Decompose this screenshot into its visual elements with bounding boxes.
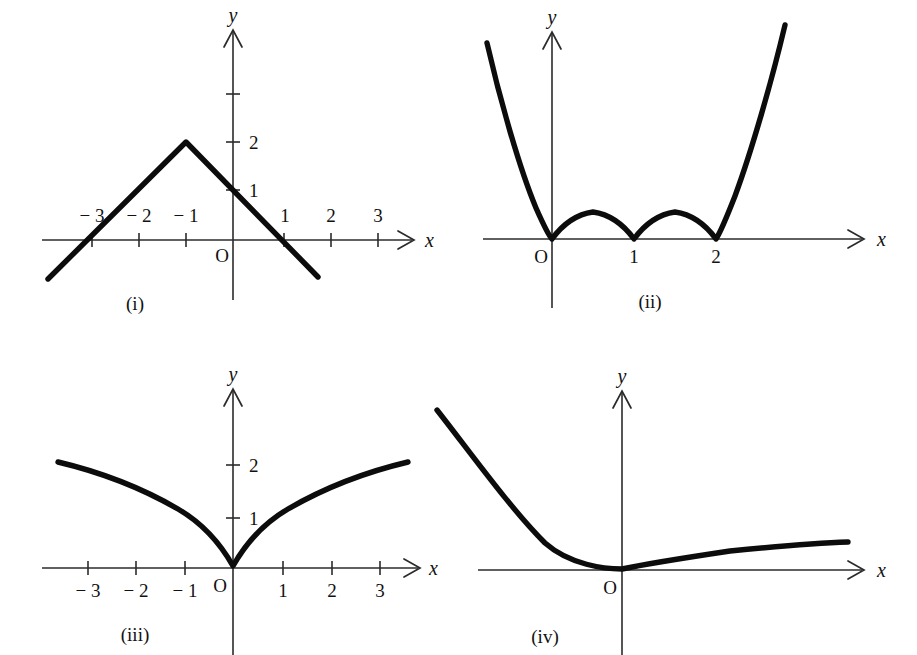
panel-iii-y-axis-label: y xyxy=(227,363,238,386)
panel-i-xtick-label-3: 3 xyxy=(373,205,383,226)
panel-ii-xtick-label-1: 1 xyxy=(629,246,639,267)
panel-iii-x-axis-label: x xyxy=(428,557,438,579)
panel-iii-xtick-label-1: 1 xyxy=(278,580,288,601)
four-graph-figure: − 3 − 2 − 1 1 2 3 1 2 O x y (i) O 1 2 x … xyxy=(0,0,917,655)
panel-iii-xtick-label--1: − 1 xyxy=(173,580,198,601)
panel-iv-origin-label: O xyxy=(603,577,617,598)
panel-i-xtick-label-1: 1 xyxy=(280,205,290,226)
panel-iv: O x y (iv) xyxy=(437,365,886,655)
panel-i: − 3 − 2 − 1 1 2 3 1 2 O x y (i) xyxy=(42,4,434,315)
panel-ii-origin-label: O xyxy=(534,246,548,267)
figure-root: − 3 − 2 − 1 1 2 3 1 2 O x y (i) O 1 2 x … xyxy=(0,0,917,655)
panel-ii-caption: (ii) xyxy=(638,291,661,313)
panel-iii: − 3 − 2 − 1 1 2 3 1 2 O x y (iii) xyxy=(42,363,438,655)
panel-ii-x-axis-label: x xyxy=(876,228,886,250)
panel-iii-xtick-label--2: − 2 xyxy=(124,580,149,601)
panel-ii-curve xyxy=(487,25,785,239)
panel-i-x-axis-label: x xyxy=(424,229,434,251)
panel-iv-y-axis-label: y xyxy=(616,365,627,388)
panel-i-origin-label: O xyxy=(215,245,229,266)
panel-iii-ytick-label-2: 2 xyxy=(249,455,259,476)
panel-i-ytick-label-1: 1 xyxy=(249,180,259,201)
panel-iv-x-axis-label: x xyxy=(876,559,886,581)
panel-iii-xtick-label-3: 3 xyxy=(375,580,385,601)
panel-ii-xtick-label-2: 2 xyxy=(711,246,721,267)
panel-i-ytick-label-2: 2 xyxy=(249,132,259,153)
panel-iii-caption: (iii) xyxy=(121,624,150,646)
panel-i-caption: (i) xyxy=(126,293,144,315)
panel-iii-xtick-label--3: − 3 xyxy=(76,580,101,601)
panel-iii-origin-label: O xyxy=(213,575,227,596)
panel-i-xtick-label-2: 2 xyxy=(326,205,336,226)
panel-iii-ytick-label-1: 1 xyxy=(249,508,259,529)
panel-iv-caption: (iv) xyxy=(531,626,558,648)
panel-i-xtick-label--2: − 2 xyxy=(127,205,152,226)
panel-iv-curve xyxy=(437,410,848,569)
panel-iii-xtick-label-2: 2 xyxy=(327,580,337,601)
panel-ii: O 1 2 x y (ii) xyxy=(483,6,886,313)
panel-i-xtick-label--1: − 1 xyxy=(174,205,199,226)
panel-ii-y-axis-label: y xyxy=(546,6,557,29)
panel-i-y-axis-label: y xyxy=(227,4,238,27)
